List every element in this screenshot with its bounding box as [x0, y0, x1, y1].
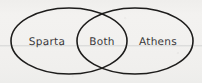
venn-diagram-figure: Sparta Both Athens [0, 0, 202, 83]
venn-label-sparta: Sparta [29, 36, 65, 48]
venn-label-athens: Athens [139, 36, 177, 48]
venn-label-both: Both [89, 36, 115, 48]
